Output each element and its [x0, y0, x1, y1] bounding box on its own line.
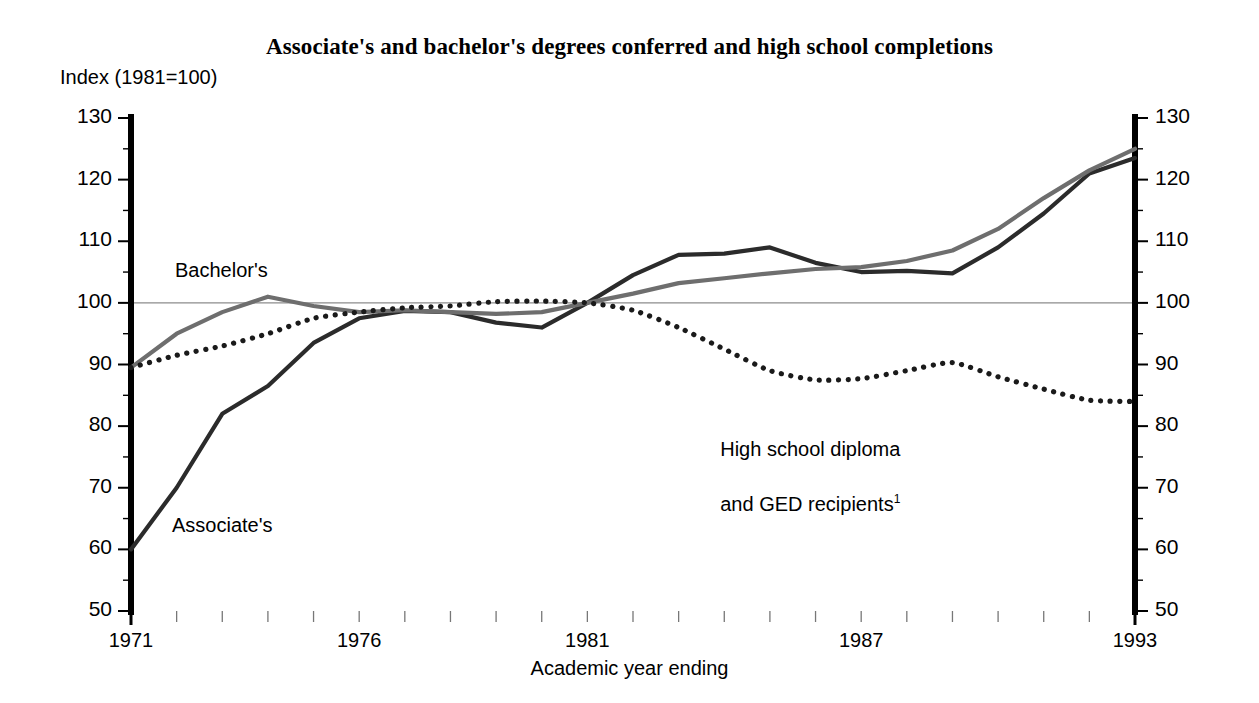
y-tick-label-right-120: 120 — [1155, 166, 1217, 190]
y-tick-label-right-70: 70 — [1155, 474, 1217, 498]
y-tick-label-left-90: 90 — [50, 351, 112, 375]
high-school-label-line2: and GED recipients — [720, 493, 893, 515]
y-tick-label-right-100: 100 — [1155, 289, 1217, 313]
footnote-marker: 1 — [894, 492, 901, 506]
y-tick-label-left-50: 50 — [50, 597, 112, 621]
y-tick-label-right-80: 80 — [1155, 412, 1217, 436]
y-tick-label-left-110: 110 — [50, 227, 112, 251]
y-tick-label-right-90: 90 — [1155, 351, 1217, 375]
x-tick-label-1971: 1971 — [86, 629, 176, 652]
y-tick-label-left-70: 70 — [50, 474, 112, 498]
x-tick-label-1993: 1993 — [1090, 629, 1180, 652]
x-tick-label-1976: 1976 — [314, 629, 404, 652]
y-tick-label-left-130: 130 — [50, 104, 112, 128]
y-tick-label-right-60: 60 — [1155, 535, 1217, 559]
y-tick-label-left-120: 120 — [50, 166, 112, 190]
chart-plot-area — [0, 0, 1259, 703]
y-tick-label-left-60: 60 — [50, 535, 112, 559]
series-line-associate-s — [131, 158, 1135, 549]
y-tick-label-left-80: 80 — [50, 412, 112, 436]
x-tick-label-1987: 1987 — [816, 629, 906, 652]
chart-figure: Associate's and bachelor's degrees confe… — [0, 0, 1259, 703]
x-axis-title: Academic year ending — [0, 657, 1259, 680]
series-label-bachelors: Bachelor's — [175, 258, 268, 283]
y-tick-label-right-130: 130 — [1155, 104, 1217, 128]
high-school-label-line1: High school diploma — [720, 438, 900, 460]
series-label-associates: Associate's — [172, 513, 273, 538]
y-tick-label-left-100: 100 — [50, 289, 112, 313]
series-line-bachelor-s — [131, 149, 1135, 368]
y-tick-label-right-50: 50 — [1155, 597, 1217, 621]
series-label-high-school: High school diploma and GED recipients1 — [698, 412, 900, 542]
x-tick-label-1981: 1981 — [542, 629, 632, 652]
y-tick-label-right-110: 110 — [1155, 227, 1217, 251]
series-line-high-school-diploma-and-ged-recipients — [131, 301, 1135, 401]
